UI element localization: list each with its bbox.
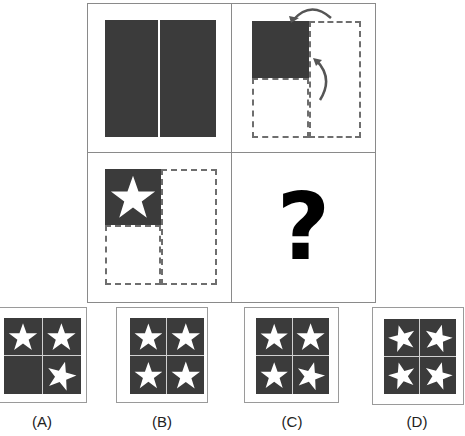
quad-bottom-right — [293, 356, 330, 394]
option-tile — [130, 318, 204, 394]
option-tile — [4, 318, 81, 394]
quad-top-left — [4, 318, 43, 356]
question-mark: ? — [232, 153, 375, 302]
panel-1 — [88, 4, 232, 153]
quad-top-right — [43, 318, 82, 356]
quad-top-right — [293, 318, 330, 356]
dashed-bottom-left-quarter — [105, 225, 161, 285]
star-icon — [296, 322, 325, 352]
dark-top-left-quarter — [105, 169, 161, 225]
option-c[interactable] — [244, 307, 339, 403]
star-icon — [8, 322, 38, 352]
dashed-right-half — [161, 169, 217, 285]
star-icon — [384, 357, 419, 393]
option-a[interactable] — [0, 307, 87, 403]
quad-top-left — [384, 319, 420, 357]
star-icon — [384, 320, 419, 355]
star-icon — [171, 360, 201, 390]
star-icon — [293, 357, 329, 394]
quad-bottom-left-empty — [4, 356, 43, 394]
option-tile — [384, 319, 456, 394]
option-c-label: (C) — [272, 413, 312, 430]
curved-arrow-side-icon — [312, 56, 334, 104]
dark-half-right — [160, 20, 216, 137]
star-icon — [134, 322, 163, 352]
panel-2 — [232, 4, 375, 153]
puzzle-grid: ? — [87, 3, 376, 303]
option-d-label: (D) — [397, 413, 437, 430]
star-icon — [260, 360, 288, 390]
curved-arrow-top-icon — [287, 4, 337, 24]
star-icon — [134, 360, 163, 390]
quad-bottom-left — [256, 356, 293, 394]
panel-4: ? — [232, 153, 375, 302]
dashed-bottom-left-quarter — [252, 78, 309, 138]
option-b-label: (B) — [142, 413, 182, 430]
panel-3 — [88, 153, 232, 302]
star-icon — [171, 322, 201, 352]
quad-bottom-right — [43, 356, 82, 394]
star-icon — [43, 356, 81, 393]
star-icon — [46, 322, 77, 352]
quad-bottom-right — [420, 357, 456, 395]
quad-bottom-left — [130, 356, 167, 394]
star-icon — [420, 357, 456, 393]
star-icon — [420, 319, 455, 355]
quad-top-right — [167, 318, 204, 356]
quad-bottom-left — [384, 357, 420, 395]
quad-top-left — [130, 318, 167, 356]
dark-top-left-quarter — [252, 21, 309, 78]
option-b[interactable] — [116, 307, 208, 403]
quad-top-left — [256, 318, 293, 356]
option-d[interactable] — [372, 307, 464, 405]
quad-top-right — [420, 319, 456, 357]
dark-half-left — [105, 20, 158, 137]
quad-bottom-right — [167, 356, 204, 394]
star-icon — [110, 174, 156, 220]
star-icon — [260, 322, 288, 352]
option-tile — [256, 318, 329, 394]
option-a-label: (A) — [22, 413, 62, 430]
